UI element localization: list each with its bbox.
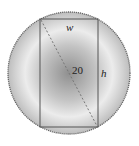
width-label: w [66,21,74,33]
log-cross-section-diagram: w 20 h [0,0,139,146]
diagonal-label: 20 [72,64,84,76]
height-label: h [101,67,107,79]
